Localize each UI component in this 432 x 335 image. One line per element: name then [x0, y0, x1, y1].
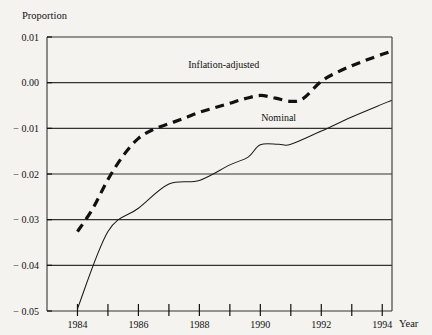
x-tick-label: 1992	[311, 319, 331, 330]
x-tick-label: 1988	[189, 319, 209, 330]
series-path-inflation-adjusted	[77, 51, 391, 231]
data-series	[77, 51, 391, 309]
y-tick-label: 0.00	[22, 77, 40, 88]
x-axis-ticks	[77, 304, 382, 316]
y-tick-label: − 0.03	[13, 214, 39, 225]
grid-lines	[47, 37, 392, 311]
x-tick-label: 1990	[250, 319, 270, 330]
series-path-nominal	[77, 100, 391, 308]
x-axis-title: Year	[399, 318, 419, 329]
proportion-line-chart: 0.010.00− 0.01− 0.02− 0.03− 0.04− 0.05 1…	[0, 0, 432, 335]
series-label-nominal: Nominal	[261, 112, 296, 123]
x-tick-label: 1986	[128, 319, 148, 330]
x-axis-tick-labels: 198419861988199019921994	[67, 319, 392, 330]
y-axis-title: Proportion	[22, 10, 68, 21]
chart-root: 0.010.00− 0.01− 0.02− 0.03− 0.04− 0.05 1…	[0, 0, 432, 335]
x-tick-label: 1994	[372, 319, 392, 330]
y-tick-label: − 0.01	[13, 123, 39, 134]
y-tick-label: − 0.05	[13, 306, 39, 317]
y-axis-tick-labels: 0.010.00− 0.01− 0.02− 0.03− 0.04− 0.05	[13, 32, 52, 317]
x-tick-label: 1984	[67, 319, 87, 330]
series-label-inflation-adjusted: Inflation-adjusted	[188, 59, 259, 70]
y-tick-label: − 0.04	[13, 260, 39, 271]
y-tick-label: 0.01	[22, 32, 40, 43]
y-tick-label: − 0.02	[13, 169, 39, 180]
